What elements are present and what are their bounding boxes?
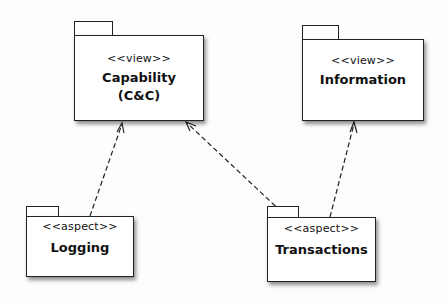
package-body: <<view>> Capability (C&C) (74, 35, 204, 121)
dependency-transactions-to-capability (187, 123, 287, 217)
arrowhead-icon (117, 123, 124, 133)
dependency-logging-to-capability (90, 124, 122, 216)
package-name-line-2: (C&C) (118, 87, 160, 105)
package-name: Logging (51, 239, 110, 257)
stereotype-label: <<view>> (331, 54, 395, 67)
package-name: Capability (102, 69, 176, 87)
stereotype-label: <<aspect>> (284, 222, 359, 235)
dependency-transactions-to-information (330, 124, 354, 217)
package-name: Information (320, 71, 406, 89)
package-name: Transactions (275, 241, 368, 259)
stereotype-label: <<view>> (107, 52, 171, 65)
package-body: <<aspect>> Transactions (267, 217, 376, 282)
stereotype-label: <<aspect>> (42, 220, 117, 233)
package-tab (302, 25, 339, 40)
package-body: <<aspect>> Logging (26, 216, 134, 277)
package-tab (74, 21, 113, 36)
package-body: <<view>> Information (302, 39, 424, 121)
